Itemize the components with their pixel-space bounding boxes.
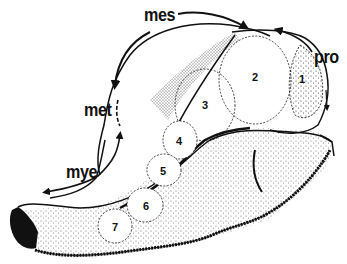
segment-label-4: 4 bbox=[176, 136, 182, 147]
forebrain-segments bbox=[175, 30, 328, 141]
segment-label-5: 5 bbox=[160, 166, 166, 177]
segment-label-2: 2 bbox=[252, 72, 258, 83]
label-mes: mes bbox=[144, 5, 175, 24]
segment-label-1: 1 bbox=[299, 74, 305, 85]
label-met: met bbox=[84, 100, 111, 119]
label-pro: pro bbox=[314, 47, 339, 66]
brain-diagram bbox=[0, 0, 347, 264]
segment-label-3: 3 bbox=[202, 100, 208, 111]
label-mye: mye bbox=[66, 162, 97, 181]
segment-label-7: 7 bbox=[112, 222, 118, 233]
segment-label-6: 6 bbox=[143, 201, 149, 212]
